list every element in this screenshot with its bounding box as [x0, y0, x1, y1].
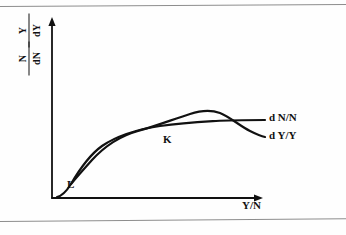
- y-axis-label-lower-fraction: N dN: [17, 42, 42, 76]
- y-axis-label-lower-denominator: dN: [30, 42, 42, 76]
- x-axis-label: Y/N: [242, 200, 261, 211]
- legend-label-dyy: d Y/Y: [269, 130, 296, 141]
- y-axis-label-lower-numerator: N: [17, 42, 30, 76]
- x-axis: [52, 194, 263, 201]
- figure-container: Y dY N dN Y/N d N/N d Y/Y K L: [0, 0, 346, 235]
- legend-label-dnn: d N/N: [269, 112, 297, 123]
- point-label-l: L: [67, 179, 74, 190]
- point-label-k: K: [163, 134, 172, 145]
- curve-dnn: [57, 120, 265, 197]
- y-axis-label: Y dY N dN: [6, 14, 50, 76]
